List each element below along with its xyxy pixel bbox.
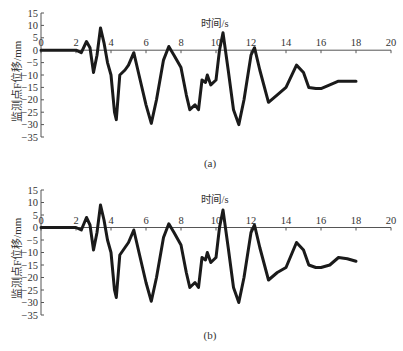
chart-b-svg: 151050−5−10−15−20−25−30−3502468101214161… <box>0 175 403 351</box>
y-tick-label: −20 <box>22 272 38 283</box>
y-tick-label: 0 <box>33 222 38 233</box>
y-tick-label: 15 <box>28 185 39 196</box>
x-tick-label: 0 <box>38 215 43 226</box>
x-axis-label: 时间/s <box>201 193 228 205</box>
x-tick-label: 4 <box>108 37 114 48</box>
y-tick-label: −5 <box>27 235 38 246</box>
x-tick-label: 2 <box>73 37 78 48</box>
y-tick-label: −10 <box>22 247 38 258</box>
y-tick-label: −15 <box>22 260 38 271</box>
x-tick-label: 14 <box>281 215 292 226</box>
y-tick-label: 0 <box>33 45 38 56</box>
x-tick-label: 0 <box>38 37 43 48</box>
x-tick-label: 2 <box>73 215 78 226</box>
chart-b-ylabel: 监测点F位移/mm <box>8 218 24 299</box>
chart-panel-b: 151050−5−10−15−20−25−30−3502468101214161… <box>0 175 403 351</box>
y-tick-label: 5 <box>33 32 38 43</box>
x-tick-label: 16 <box>316 37 327 48</box>
x-tick-label: 8 <box>178 37 183 48</box>
displacement-line <box>41 28 356 125</box>
y-tick-label: −10 <box>22 70 38 81</box>
x-tick-label: 20 <box>386 215 397 226</box>
x-tick-label: 14 <box>281 37 292 48</box>
displacement-line <box>41 205 356 303</box>
y-tick-label: −20 <box>22 94 38 105</box>
x-tick-label: 6 <box>143 37 148 48</box>
x-tick-label: 8 <box>178 215 183 226</box>
x-tick-label: 18 <box>351 215 362 226</box>
chart-b-caption: (b) <box>180 329 240 341</box>
y-tick-label: 5 <box>33 210 38 221</box>
y-tick-label: −35 <box>22 132 38 143</box>
y-tick-label: −25 <box>22 107 38 118</box>
y-tick-label: 10 <box>28 197 39 208</box>
chart-a-svg: 151050−5−10−15−20−25−30−3502468101214161… <box>0 0 403 175</box>
y-tick-label: −30 <box>22 297 38 308</box>
x-tick-label: 6 <box>143 215 148 226</box>
chart-a-caption: (a) <box>180 157 240 169</box>
x-tick-label: 16 <box>316 215 327 226</box>
x-tick-label: 4 <box>108 215 114 226</box>
y-tick-label: −15 <box>22 82 38 93</box>
y-tick-label: −5 <box>27 57 38 68</box>
x-tick-label: 20 <box>386 37 397 48</box>
y-tick-label: −25 <box>22 285 38 296</box>
y-tick-label: −35 <box>22 310 38 321</box>
y-tick-label: −30 <box>22 119 38 130</box>
x-tick-label: 18 <box>351 37 362 48</box>
chart-a-ylabel: 监测点F位移/mm <box>8 41 24 122</box>
chart-panel-a: 151050−5−10−15−20−25−30−3502468101214161… <box>0 0 403 175</box>
y-tick-label: 10 <box>28 20 39 31</box>
x-axis-label: 时间/s <box>201 17 228 29</box>
y-tick-label: 15 <box>28 8 39 19</box>
